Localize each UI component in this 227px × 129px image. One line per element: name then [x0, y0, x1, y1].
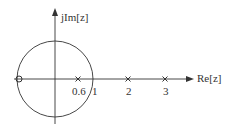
pole-zero-plot [0, 0, 227, 129]
y-axis-label: jIm[z] [61, 11, 88, 23]
tick-label-1: 1 [92, 85, 98, 97]
imag-axis-arrow-icon [52, 8, 58, 16]
x-axis-label: Re[z] [197, 72, 221, 84]
tick-label-3: 3 [163, 85, 169, 97]
tick-label-0.6: 0.6 [72, 85, 86, 97]
tick-label-2: 2 [126, 85, 132, 97]
real-axis-arrow-icon [186, 76, 194, 82]
